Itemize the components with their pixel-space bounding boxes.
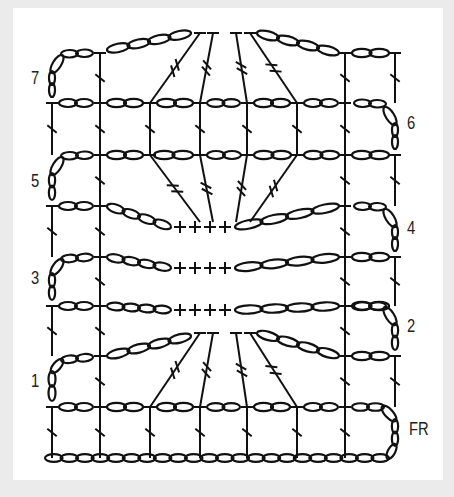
- row-label-3: 3: [31, 269, 39, 287]
- row-label-5: 5: [31, 172, 39, 190]
- row-label-6: 6: [407, 114, 415, 132]
- row-label-foundation: FR: [409, 420, 429, 438]
- row-label-4: 4: [407, 219, 415, 237]
- row-label-7: 7: [31, 69, 39, 87]
- row-label-2: 2: [407, 317, 415, 335]
- row-label-1: 1: [31, 372, 39, 390]
- crochet-chart: [0, 0, 454, 497]
